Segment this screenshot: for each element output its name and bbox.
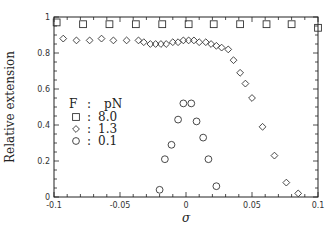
- legend-title-f: F: [69, 97, 77, 111]
- square-point: [210, 21, 217, 28]
- square-point: [80, 21, 87, 28]
- y-axis-label: Relative extension: [3, 51, 17, 163]
- diamond-point: [230, 57, 237, 64]
- square-point: [159, 21, 166, 28]
- circle-point: [188, 100, 195, 107]
- diamond-point: [73, 37, 80, 44]
- diamond-point: [271, 152, 278, 159]
- y-tick-label: 0.6: [37, 85, 50, 94]
- diamond-point: [237, 69, 244, 76]
- square-point: [263, 21, 270, 28]
- x-tick-label: 0: [183, 201, 188, 210]
- plot-border: [54, 17, 318, 197]
- square-point: [288, 21, 295, 28]
- diamond-point: [86, 37, 93, 44]
- legend-title-unit: pN: [104, 97, 122, 111]
- diamond-point: [259, 123, 266, 130]
- plot-frame: [54, 17, 318, 197]
- chart: 00.20.40.60.81 -0.1-0.0500.050.1 Relativ…: [0, 0, 336, 231]
- circle-point: [193, 118, 200, 125]
- legend-label: 0.1: [98, 134, 117, 148]
- diamond-point: [242, 80, 249, 87]
- y-tick-label: 0.8: [37, 49, 50, 58]
- square-point: [132, 21, 139, 28]
- legend-separator: :: [87, 134, 91, 148]
- legend: F : pN :8.0:1.3:0.1: [69, 97, 122, 148]
- y-tick-label: 0.2: [37, 157, 50, 166]
- x-tick-label: -0.1: [46, 201, 62, 210]
- legend-square-icon: [73, 114, 80, 121]
- legend-title-sep: :: [87, 97, 91, 111]
- y-tick-label: 0.4: [37, 121, 50, 130]
- square-point: [237, 21, 244, 28]
- x-tick-label: 0.1: [312, 201, 325, 210]
- circle-point: [213, 183, 220, 190]
- circle-point: [168, 141, 175, 148]
- circle-point: [180, 100, 187, 107]
- x-axis-label: σ: [182, 211, 191, 225]
- diamond-point: [295, 190, 302, 197]
- circle-point: [161, 156, 168, 163]
- square-point: [106, 21, 113, 28]
- data-points: [53, 19, 321, 197]
- x-tick-label: -0.05: [110, 201, 131, 210]
- diamond-point: [225, 46, 232, 53]
- diamond-point: [283, 179, 290, 186]
- circle-point: [200, 134, 207, 141]
- circle-point: [175, 116, 182, 123]
- diamond-point: [98, 35, 105, 42]
- circle-point: [156, 186, 163, 193]
- diamond-point: [110, 37, 117, 44]
- diamond-point: [249, 95, 256, 102]
- diamond-point: [60, 35, 67, 42]
- legend-circle-icon: [73, 138, 80, 145]
- circle-point: [205, 156, 212, 163]
- x-tick-label: 0.05: [243, 201, 261, 210]
- legend-diamond-icon: [73, 126, 80, 133]
- y-tick-label: 1: [45, 13, 50, 22]
- diamond-point: [123, 37, 130, 44]
